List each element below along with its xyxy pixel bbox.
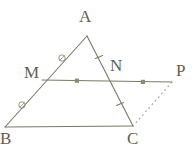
vertex-label-C: C bbox=[127, 130, 138, 147]
vertex-label-B: B bbox=[0, 130, 11, 147]
vertex-label-P: P bbox=[176, 62, 185, 79]
segment-CP bbox=[133, 82, 172, 126]
segment-BC bbox=[5, 126, 133, 127]
geometry-figure: A M N P B C bbox=[0, 0, 196, 157]
segment-AB bbox=[5, 36, 87, 127]
segment-MP bbox=[42, 80, 172, 82]
tick-AM-icon bbox=[59, 55, 65, 61]
vertex-label-N: N bbox=[110, 57, 122, 74]
vertex-label-A: A bbox=[79, 8, 91, 25]
tick-NP-icon bbox=[141, 80, 145, 84]
tick-AN-icon bbox=[96, 56, 103, 59]
tick-MN-icon bbox=[75, 79, 79, 83]
vertex-label-M: M bbox=[24, 64, 39, 81]
